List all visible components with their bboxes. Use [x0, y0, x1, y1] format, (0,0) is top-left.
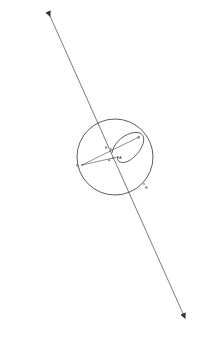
label-a: A: [119, 155, 122, 160]
point-e: [110, 148, 111, 149]
label-c: C: [137, 135, 140, 140]
point-f: [112, 157, 113, 158]
label-b: B: [145, 185, 148, 190]
main-circle: [77, 119, 153, 195]
point-d: [81, 164, 83, 166]
label-e: E: [105, 145, 108, 150]
segment-d-c: [82, 137, 139, 165]
label-d: D: [76, 163, 79, 168]
geometry-diagram: A B C D E F: [0, 0, 209, 337]
line-arrow-both: [50, 16, 185, 318]
